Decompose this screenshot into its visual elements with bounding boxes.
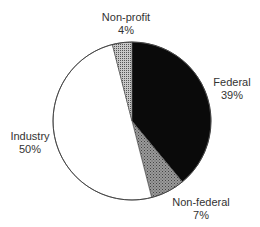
label-industry: Industry 50%	[6, 130, 54, 156]
label-federal-pct: 39%	[208, 89, 256, 102]
label-federal: Federal 39%	[208, 76, 256, 102]
label-industry-name: Industry	[6, 130, 54, 143]
label-non-federal: Non-federal 7%	[168, 196, 234, 222]
label-federal-name: Federal	[208, 76, 256, 89]
label-non-profit: Non-profit 4%	[98, 11, 154, 37]
label-non-federal-name: Non-federal	[168, 196, 234, 209]
pie-slices	[53, 42, 211, 200]
label-non-profit-name: Non-profit	[98, 11, 154, 24]
label-industry-pct: 50%	[6, 143, 54, 156]
label-non-federal-pct: 7%	[168, 209, 234, 222]
label-non-profit-pct: 4%	[98, 24, 154, 37]
